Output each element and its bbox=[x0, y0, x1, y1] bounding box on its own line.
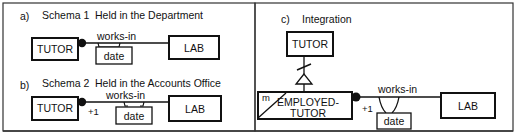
panel-a-marker: a) bbox=[20, 10, 29, 22]
panel-c-marker: c) bbox=[281, 13, 290, 25]
panel-b: b) Schema 2 Held in the Accounts Office … bbox=[20, 77, 221, 124]
attribute-date-c-label: date bbox=[384, 115, 405, 127]
entity-lab-b-label: LAB bbox=[185, 103, 205, 115]
entity-tutor-c-label: TUTOR bbox=[292, 38, 328, 50]
attribute-connector-c bbox=[379, 97, 399, 113]
er-diagram-figure: a) Schema 1 Held in the Department TUTOR… bbox=[0, 0, 516, 135]
cardinality-c: +1 bbox=[362, 103, 373, 114]
panel-a: a) Schema 1 Held in the Department TUTOR… bbox=[20, 9, 219, 64]
relationship-label-b: works-in bbox=[105, 89, 145, 101]
panel-b-title: Held in the Accounts Office bbox=[95, 77, 221, 89]
entity-tutor-b-label: TUTOR bbox=[37, 102, 73, 114]
panel-c: c) Integration TUTOR m EMPLOYED- TUTOR +… bbox=[258, 13, 495, 129]
entity-lab-c-label: LAB bbox=[458, 100, 478, 112]
cardinality-b: +1 bbox=[88, 106, 99, 117]
entity-tutor-a-label: TUTOR bbox=[37, 43, 73, 55]
panel-c-title: Integration bbox=[302, 13, 352, 25]
panel-b-schema: Schema 2 bbox=[42, 77, 89, 89]
attribute-date-a-label: date bbox=[104, 50, 125, 62]
panel-b-marker: b) bbox=[20, 79, 29, 91]
relationship-label-a: works-in bbox=[96, 30, 136, 42]
panel-a-title: Held in the Department bbox=[95, 9, 203, 21]
isa-triangle-icon bbox=[296, 74, 312, 84]
entity-lab-a-label: LAB bbox=[184, 42, 204, 54]
entity-employed-tutor-line2: TUTOR bbox=[290, 107, 326, 119]
relationship-label-c: works-in bbox=[377, 83, 417, 95]
subtype-tag: m bbox=[262, 92, 270, 103]
attribute-date-b-label: date bbox=[124, 110, 145, 122]
panel-a-schema: Schema 1 bbox=[42, 9, 89, 21]
